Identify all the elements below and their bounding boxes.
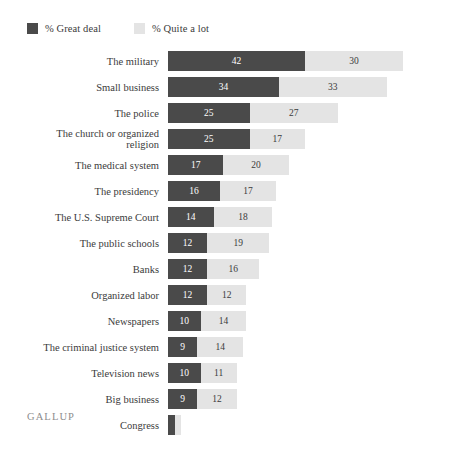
legend-label-1: % Quite a lot [152, 23, 209, 34]
chart-row-label: Television news [0, 363, 168, 383]
chart-row: Television news1011 [0, 363, 450, 383]
bar-segment-great-deal[interactable]: 34 [168, 77, 279, 97]
bar-segment-quite-a-lot[interactable]: 27 [250, 103, 338, 123]
bar-segment-quite-a-lot[interactable]: 12 [207, 285, 246, 305]
bar-segment-great-deal[interactable]: 10 [168, 311, 201, 331]
bar-segment-quite-a-lot[interactable]: 17 [220, 181, 275, 201]
chart-row: The presidency1617 [0, 181, 450, 201]
bar-segment-great-deal[interactable]: 14 [168, 207, 214, 227]
bar-segment-great-deal[interactable]: 9 [168, 337, 197, 357]
chart-row-label-line: The criminal justice system [43, 342, 159, 353]
bar-segment-great-deal[interactable]: 16 [168, 181, 220, 201]
chart-row-bars: 3433 [168, 77, 450, 97]
chart-plot-area: The military4230Small business3433The po… [0, 51, 450, 441]
bar-segment-quite-a-lot[interactable]: 14 [201, 311, 247, 331]
chart-row-bars: 4230 [168, 51, 450, 71]
chart-row-bars: 2517 [168, 129, 450, 149]
chart-row: Organized labor1212 [0, 285, 450, 305]
legend-swatch-quite-a-lot [134, 23, 145, 34]
chart-row-bars: 1219 [168, 233, 450, 253]
bar-segment-great-deal[interactable]: 25 [168, 129, 250, 149]
chart-row-label: The military [0, 51, 168, 71]
chart-row: Small business3433 [0, 77, 450, 97]
chart-row-label-line: The U.S. Supreme Court [55, 212, 159, 223]
chart-row-bars: 1720 [168, 155, 450, 175]
chart-row-label: Small business [0, 77, 168, 97]
chart-row: The military4230 [0, 51, 450, 71]
chart-row-label-line: Small business [96, 82, 159, 93]
chart-row-label-line: religion [126, 139, 159, 150]
chart-row-label-line: The public schools [80, 238, 159, 249]
bar-segment-great-deal[interactable]: 9 [168, 389, 197, 409]
chart-row: Big business912 [0, 389, 450, 409]
bar-segment-quite-a-lot[interactable]: 14 [197, 337, 243, 357]
bar-segment-quite-a-lot[interactable]: 20 [223, 155, 288, 175]
chart-row-label: Newspapers [0, 311, 168, 331]
bar-segment-great-deal[interactable]: 17 [168, 155, 223, 175]
chart-row: Newspapers1014 [0, 311, 450, 331]
chart-row-label: The U.S. Supreme Court [0, 207, 168, 227]
chart-row-label: Banks [0, 259, 168, 279]
chart-row-bars: 1011 [168, 363, 450, 383]
chart-row: The police2527 [0, 103, 450, 123]
chart-row-bars: 1216 [168, 259, 450, 279]
chart-row-label-line: Congress [120, 420, 159, 431]
chart-row: The medical system1720 [0, 155, 450, 175]
chart-row-bars: 1212 [168, 285, 450, 305]
chart-row: The public schools1219 [0, 233, 450, 253]
bar-segment-great-deal[interactable]: 42 [168, 51, 305, 71]
chart-row-label-line: Organized labor [91, 290, 159, 301]
chart-row-label: The criminal justice system [0, 337, 168, 357]
chart-row-label: The police [0, 103, 168, 123]
chart-row-bars: 1014 [168, 311, 450, 331]
chart-row-bars: 1617 [168, 181, 450, 201]
bar-segment-quite-a-lot[interactable]: 30 [305, 51, 403, 71]
chart-row-label-line: The church or organized [56, 128, 159, 139]
bar-segment-quite-a-lot[interactable]: 16 [207, 259, 259, 279]
chart-row-label-line: Banks [133, 264, 159, 275]
chart-row-bars [168, 415, 450, 435]
bar-segment-quite-a-lot[interactable] [175, 415, 182, 435]
chart-row: The church or organizedreligion2517 [0, 129, 450, 149]
chart-row: The criminal justice system914 [0, 337, 450, 357]
chart-legend: % Great deal% Quite a lot [27, 21, 209, 35]
bar-segment-quite-a-lot[interactable]: 18 [214, 207, 273, 227]
chart-row-bars: 914 [168, 337, 450, 357]
bar-segment-great-deal[interactable]: 10 [168, 363, 201, 383]
chart-row-bars: 2527 [168, 103, 450, 123]
bar-segment-great-deal[interactable]: 12 [168, 259, 207, 279]
legend-entry-1[interactable]: % Quite a lot [134, 23, 209, 34]
chart-row-bars: 912 [168, 389, 450, 409]
bar-segment-great-deal[interactable]: 12 [168, 233, 207, 253]
chart-row-label: The medical system [0, 155, 168, 175]
chart-row-label-line: Big business [106, 394, 159, 405]
chart-row-label-line: The police [114, 108, 159, 119]
chart-row-label: Organized labor [0, 285, 168, 305]
chart-row-label: Big business [0, 389, 168, 409]
chart-row-label: The public schools [0, 233, 168, 253]
chart-row-label-line: The military [107, 56, 159, 67]
legend-swatch-great-deal [27, 23, 38, 34]
bar-segment-quite-a-lot[interactable]: 11 [201, 363, 237, 383]
legend-label-0: % Great deal [45, 23, 101, 34]
chart-row-label-line: Newspapers [108, 316, 159, 327]
chart-source-footer: GALLUP [27, 411, 75, 422]
bar-segment-great-deal[interactable]: 25 [168, 103, 250, 123]
chart-row-label-line: The medical system [75, 160, 159, 171]
bar-segment-quite-a-lot[interactable]: 12 [197, 389, 236, 409]
chart-row-label: Congress [0, 415, 168, 435]
chart-row-label: The presidency [0, 181, 168, 201]
chart-row: Banks1216 [0, 259, 450, 279]
bar-segment-quite-a-lot[interactable]: 33 [279, 77, 387, 97]
chart-row-label: The church or organizedreligion [0, 129, 168, 149]
chart-row: The U.S. Supreme Court1418 [0, 207, 450, 227]
chart-row-label-line: Television news [91, 368, 159, 379]
bar-segment-great-deal[interactable]: 12 [168, 285, 207, 305]
chart-row-bars: 1418 [168, 207, 450, 227]
legend-entry-0[interactable]: % Great deal [27, 23, 101, 34]
bar-segment-quite-a-lot[interactable]: 19 [207, 233, 269, 253]
bar-segment-quite-a-lot[interactable]: 17 [250, 129, 305, 149]
chart-row-label-line: The presidency [95, 186, 159, 197]
